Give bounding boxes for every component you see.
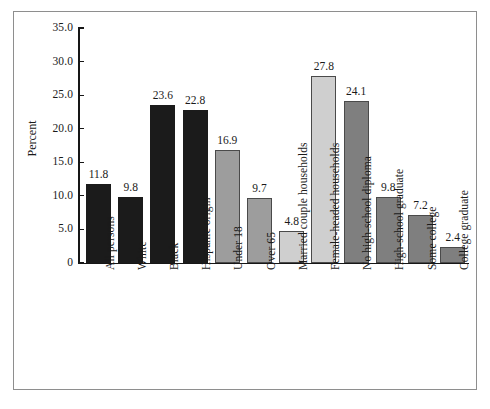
- plot-area: [78, 28, 476, 263]
- bar-value-label: 9.8: [111, 182, 150, 194]
- x-axis-category-label: All persons: [104, 216, 116, 270]
- bar-value-label: 22.8: [176, 95, 215, 107]
- y-axis-tick-label: 20.0: [28, 123, 73, 135]
- bar: [150, 105, 175, 263]
- x-axis-category-label: Black: [168, 243, 180, 270]
- x-axis-category-label: Married couple households: [297, 142, 309, 270]
- x-axis-category-label: Over 65: [265, 232, 277, 270]
- y-axis-tick-label: 0: [28, 257, 73, 269]
- x-axis-category-label: High-school graduate: [393, 169, 405, 270]
- x-axis-category-label: Hispanic origin: [200, 197, 212, 270]
- y-axis-tick-label: 5.0: [28, 223, 73, 235]
- y-axis-tick-label: 15.0: [28, 156, 73, 168]
- x-axis-category-label: College graduate: [458, 190, 470, 270]
- bar-value-label: 24.1: [337, 86, 376, 98]
- bar-value-label: 16.9: [208, 135, 247, 147]
- x-axis-category-label: White: [136, 241, 148, 270]
- x-axis-category-label: No high-school diploma: [361, 156, 373, 270]
- y-axis-tick-label: 30.0: [28, 56, 73, 68]
- chart-figure: Percent 05.010.015.020.025.030.035.0 11.…: [0, 0, 490, 409]
- x-axis-category-label: Female-headed households: [329, 143, 341, 270]
- y-axis-tick-label: 10.0: [28, 190, 73, 202]
- bar-value-label: 9.7: [240, 183, 279, 195]
- x-axis-category-label: Under 18: [232, 226, 244, 270]
- y-axis-tick-label: 25.0: [28, 89, 73, 101]
- y-axis-tick-label: 35.0: [28, 22, 73, 34]
- bar-value-label: 27.8: [304, 61, 343, 73]
- bar-value-label: 11.8: [79, 169, 118, 181]
